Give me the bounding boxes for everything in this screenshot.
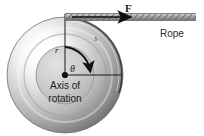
axle-dot <box>62 72 68 78</box>
diagram-canvas <box>0 0 204 136</box>
physics-diagram-rotating-wheel: F Rope r θ s Axis of rotation <box>0 0 204 136</box>
rope-label: Rope <box>160 29 184 40</box>
axis-of-rotation-label-line2: rotation <box>30 94 100 105</box>
radius-label: r <box>55 46 59 55</box>
arc-length-label: s <box>94 34 98 43</box>
force-label: F <box>125 3 132 15</box>
angle-label: θ <box>70 64 75 75</box>
axis-of-rotation-label-line1: Axis of <box>30 81 100 92</box>
